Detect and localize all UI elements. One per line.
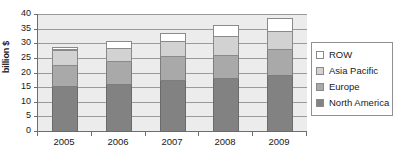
bar-segment-europe-2005[interactable] [52, 65, 78, 87]
x-axis-tick [198, 132, 199, 136]
y-axis-tick [34, 29, 38, 30]
legend-swatch-icon [316, 99, 324, 107]
legend-label: North America [329, 98, 389, 108]
bar-segment-row-2009[interactable] [267, 18, 293, 32]
legend-label: ROW [329, 50, 352, 60]
x-axis-tick-label-2009: 2009 [256, 136, 302, 147]
y-axis-tick [34, 58, 38, 59]
x-axis-tick [306, 132, 307, 136]
x-axis-tick [37, 132, 38, 136]
bar-segment-north-america-2006[interactable] [106, 83, 132, 132]
y-axis-tick-label: 40 [5, 9, 31, 18]
y-axis-tick-labels: 4035302520151050 [0, 14, 31, 131]
legend-item-asia-pacific[interactable]: Asia Pacific [316, 63, 389, 79]
legend-item-row[interactable]: ROW [316, 47, 389, 63]
legend-label: Asia Pacific [329, 66, 378, 76]
y-axis-tick [34, 102, 38, 103]
y-axis-tick-label: 5 [5, 111, 31, 120]
y-axis-tick-label: 30 [5, 38, 31, 47]
legend-swatch-icon [316, 67, 324, 75]
y-axis-tick [34, 43, 38, 44]
y-axis-tick-label: 20 [5, 68, 31, 77]
bar-segment-north-america-2007[interactable] [160, 80, 186, 132]
bar-segment-asia-pacific-2006[interactable] [106, 48, 132, 62]
legend-label: Europe [329, 82, 360, 92]
bar-segment-europe-2007[interactable] [160, 56, 186, 81]
bar-segment-asia-pacific-2009[interactable] [267, 30, 293, 50]
chart-legend: ROWAsia PacificEuropeNorth America [311, 42, 393, 116]
plot-area [37, 14, 307, 132]
bar-group-2005[interactable] [52, 14, 78, 131]
x-axis-tick-labels: 20052006200720082009 [37, 136, 306, 152]
chart-title [0, 0, 310, 3]
y-axis-tick [34, 116, 38, 117]
bar-segment-north-america-2008[interactable] [213, 78, 239, 132]
x-axis-tick [252, 132, 253, 136]
bar-group-2008[interactable] [213, 14, 239, 131]
chart-container: billion $ 4035302520151050 2005200620072… [0, 0, 398, 161]
x-axis-tick-label-2007: 2007 [149, 136, 195, 147]
y-axis-tick-label: 15 [5, 82, 31, 91]
bar-segment-row-2008[interactable] [213, 25, 239, 37]
legend-item-north-america[interactable]: North America [316, 95, 389, 111]
legend-swatch-icon [316, 51, 324, 59]
y-axis-tick-label: 10 [5, 97, 31, 106]
bar-segment-asia-pacific-2005[interactable] [52, 50, 78, 66]
y-axis-tick [34, 73, 38, 74]
bar-segment-asia-pacific-2008[interactable] [213, 36, 239, 56]
bar-group-2006[interactable] [106, 14, 132, 131]
y-axis-tick-label: 35 [5, 24, 31, 33]
x-axis-tick-label-2006: 2006 [95, 136, 141, 147]
bar-segment-europe-2008[interactable] [213, 55, 239, 79]
bar-segment-europe-2006[interactable] [106, 61, 132, 85]
x-axis-tick [145, 132, 146, 136]
bar-segment-asia-pacific-2007[interactable] [160, 41, 186, 57]
bar-segment-row-2006[interactable] [106, 41, 132, 49]
bar-segment-north-america-2005[interactable] [52, 86, 78, 132]
bar-group-2007[interactable] [160, 14, 186, 131]
x-axis-tick-label-2005: 2005 [41, 136, 87, 147]
y-axis-tick [34, 87, 38, 88]
y-axis-tick-label: 25 [5, 53, 31, 62]
bar-segment-row-2007[interactable] [160, 33, 186, 42]
y-axis-tick [34, 14, 38, 15]
bar-segment-row-2005[interactable] [52, 47, 78, 50]
bar-group-2009[interactable] [267, 14, 293, 131]
y-axis-tick-label: 0 [5, 126, 31, 135]
bar-segment-north-america-2009[interactable] [267, 75, 293, 132]
x-axis-tick [91, 132, 92, 136]
x-axis-tick-label-2008: 2008 [202, 136, 248, 147]
legend-item-europe[interactable]: Europe [316, 79, 389, 95]
legend-swatch-icon [316, 83, 324, 91]
bar-segment-europe-2009[interactable] [267, 49, 293, 76]
